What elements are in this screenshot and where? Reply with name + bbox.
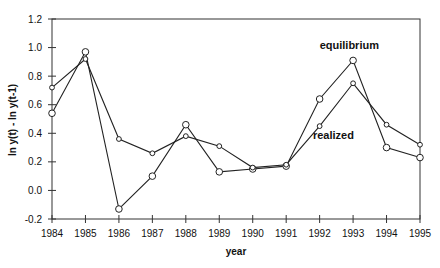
x-tick-label: 1989 (208, 228, 231, 239)
y-tick-label: 0.4 (28, 128, 42, 139)
data-point (284, 162, 289, 167)
data-point (351, 81, 356, 86)
x-tick-label: 1994 (375, 228, 398, 239)
line-chart: -0.20.00.20.40.60.81.01.2 19841985198619… (0, 0, 440, 268)
data-point (50, 85, 55, 90)
data-point (117, 137, 122, 142)
x-tick-label: 1987 (141, 228, 164, 239)
data-point (49, 110, 56, 117)
data-point (82, 49, 89, 56)
data-point (216, 169, 223, 176)
x-tick-label: 1995 (409, 228, 432, 239)
x-tick-label: 1986 (108, 228, 131, 239)
data-point (150, 151, 155, 156)
annotation-realized: realized (313, 129, 354, 141)
y-tick-label: 0.6 (28, 99, 42, 110)
series-equilibrium (49, 49, 424, 213)
x-tick-label: 1985 (74, 228, 97, 239)
y-axis: -0.20.00.20.40.60.81.01.2 (25, 14, 56, 225)
data-point (183, 134, 188, 139)
y-tick-label: 1.2 (28, 14, 42, 25)
x-axis-label: year (226, 246, 247, 257)
data-point (183, 121, 190, 128)
data-point (116, 206, 123, 213)
series-lines (49, 49, 424, 213)
annotation-equilibrium: equilibrium (320, 39, 380, 51)
data-point (316, 96, 323, 103)
y-axis-label: ln y(t) - ln y(t-1) (7, 84, 18, 156)
data-point (83, 57, 88, 62)
series-realized (50, 57, 423, 170)
data-point (383, 144, 390, 151)
data-point (350, 57, 357, 64)
data-point (384, 122, 389, 127)
data-point (250, 165, 255, 170)
x-tick-label: 1992 (309, 228, 332, 239)
annotations: equilibriumrealized (313, 39, 379, 141)
data-point (217, 144, 222, 149)
data-point (317, 124, 322, 129)
x-tick-label: 1988 (175, 228, 198, 239)
y-tick-label: -0.2 (25, 214, 43, 225)
x-tick-label: 1993 (342, 228, 365, 239)
y-tick-label: 0.0 (28, 185, 42, 196)
y-tick-label: 0.8 (28, 71, 42, 82)
data-point (417, 154, 424, 161)
data-point (418, 142, 423, 147)
y-tick-label: 0.2 (28, 156, 42, 167)
x-tick-label: 1984 (41, 228, 64, 239)
x-tick-label: 1990 (242, 228, 265, 239)
y-tick-label: 1.0 (28, 42, 42, 53)
data-point (149, 173, 156, 180)
x-tick-label: 1991 (275, 228, 298, 239)
